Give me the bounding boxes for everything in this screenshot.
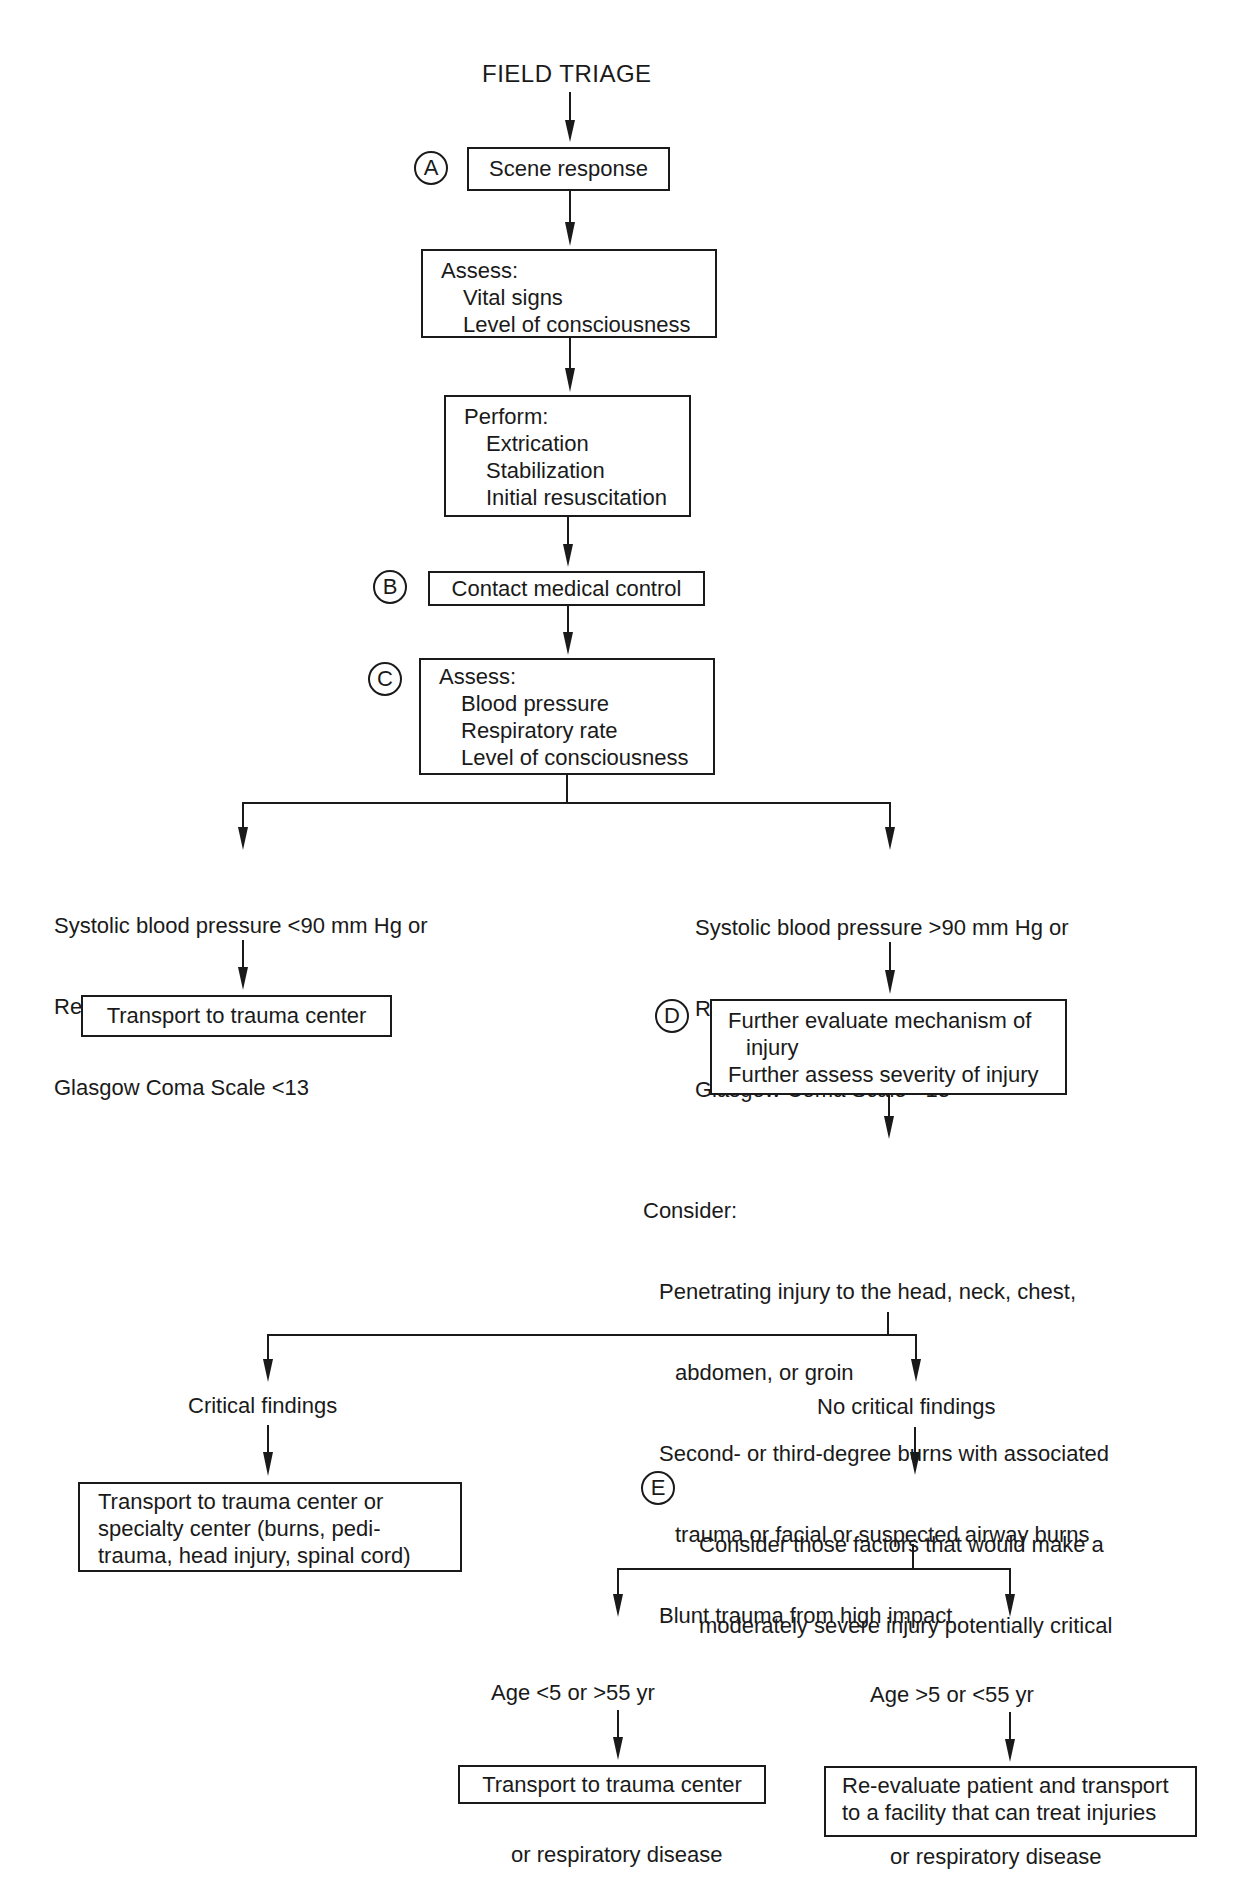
no-critical-findings-label: No critical findings — [817, 1393, 996, 1420]
step-marker-c: C — [368, 662, 402, 696]
further-evaluate-box: Further evaluate mechanism of injury Fur… — [710, 999, 1067, 1095]
contact-medical-control-box: Contact medical control — [428, 571, 705, 606]
specialty-center-line: specialty center (burns, pedi- — [98, 1515, 460, 1542]
transport-trauma-center-label-2: Transport to trauma center — [460, 1767, 764, 1802]
consider-heading: Consider: — [643, 1197, 1109, 1224]
specialty-center-line: trauma, head injury, spinal cord) — [98, 1542, 460, 1569]
evaluate-line: injury — [728, 1034, 1065, 1061]
contact-medical-control-label: Contact medical control — [430, 573, 703, 604]
step-marker-e: E — [641, 1471, 675, 1505]
step-marker-d: D — [655, 999, 689, 1033]
transport-trauma-center-label: Transport to trauma center — [83, 997, 390, 1035]
specialty-center-line: Transport to trauma center or — [98, 1488, 460, 1515]
scene-response-label: Scene response — [469, 149, 668, 189]
risk-line: Age >5 or <55 yr — [870, 1681, 1140, 1708]
assess-vitals-heading: Assess: — [441, 257, 715, 284]
perform-box: Perform: Extrication Stabilization Initi… — [444, 395, 691, 517]
factors-line: Consider those factors that would make a — [699, 1531, 1112, 1558]
reevaluate-line: to a facility that can treat injuries — [842, 1799, 1195, 1826]
perform-item: Extrication — [464, 430, 689, 457]
assess-vitals-item: Level of consciousness — [441, 311, 715, 338]
risk-line: Age <5 or >55 yr — [491, 1679, 731, 1706]
critical-findings-label: Critical findings — [188, 1392, 337, 1419]
assess-detailed-item: Respiratory rate — [439, 717, 713, 744]
evaluate-line: Further assess severity of injury — [728, 1061, 1065, 1088]
assess-detailed-item: Blood pressure — [439, 690, 713, 717]
consider-item-continued: abdomen, or groin — [643, 1359, 1109, 1386]
reevaluate-transport-box: Re-evaluate patient and transport to a f… — [824, 1766, 1197, 1837]
step-marker-a: A — [414, 151, 448, 185]
perform-item: Initial resuscitation — [464, 484, 689, 511]
criteria-line: Systolic blood pressure <90 mm Hg or — [54, 912, 428, 939]
criteria-line: Glasgow Coma Scale <13 — [54, 1074, 428, 1101]
consider-item: Penetrating injury to the head, neck, ch… — [643, 1278, 1109, 1305]
risk-line: or respiratory disease — [870, 1843, 1140, 1870]
perform-heading: Perform: — [464, 403, 689, 430]
assess-detailed-heading: Assess: — [439, 663, 713, 690]
assess-vitals-detailed-box: Assess: Blood pressure Respiratory rate … — [419, 658, 715, 775]
transport-trauma-center-box-2: Transport to trauma center — [458, 1765, 766, 1804]
perform-item: Stabilization — [464, 457, 689, 484]
criteria-line: Systolic blood pressure >90 mm Hg or — [695, 914, 1069, 941]
reevaluate-line: Re-evaluate patient and transport — [842, 1772, 1195, 1799]
field-triage-flowchart: FIELD TRIAGE A Scene response Assess: Vi… — [0, 0, 1244, 1896]
assess-vitals-box: Assess: Vital signs Level of consciousne… — [421, 249, 717, 338]
high-risk-factors: Age <5 or >55 yr History of known cardia… — [491, 1625, 731, 1896]
risk-line: or respiratory disease — [491, 1841, 731, 1868]
consider-item: Second- or third-degree burns with assoc… — [643, 1440, 1109, 1467]
transport-trauma-center-box: Transport to trauma center — [81, 995, 392, 1037]
flowchart-title: FIELD TRIAGE — [482, 60, 652, 87]
transport-specialty-center-box: Transport to trauma center or specialty … — [78, 1482, 462, 1572]
assess-detailed-item: Level of consciousness — [439, 744, 713, 771]
low-risk-factors: Age >5 or <55 yr No history of known car… — [870, 1627, 1140, 1896]
step-marker-b: B — [373, 570, 407, 604]
scene-response-box: Scene response — [467, 147, 670, 191]
assess-vitals-item: Vital signs — [441, 284, 715, 311]
evaluate-line: Further evaluate mechanism of — [728, 1007, 1065, 1034]
